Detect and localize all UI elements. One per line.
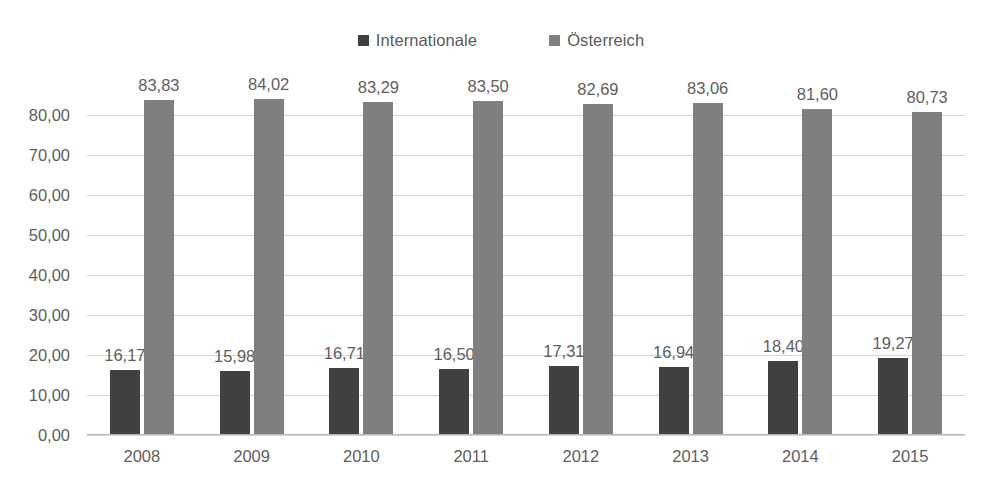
chart-legend: Internationale Österreich (0, 31, 1002, 50)
y-axis-tick-label: 20,00 (29, 346, 70, 365)
bar-slot: 16,94 (659, 75, 689, 435)
bar-group: 16,7183,29 (307, 75, 417, 435)
bar-internationale-2013[interactable]: 16,94 (659, 367, 689, 435)
y-axis-tick-label: 40,00 (29, 266, 70, 285)
gridline (87, 435, 965, 436)
x-axis-labels: 20082009201020112012201320142015 (87, 447, 965, 477)
legend-swatch-internationale (358, 35, 369, 46)
bar-group: 16,9483,06 (636, 75, 746, 435)
bar-sterreich-2013[interactable]: 83,06 (693, 103, 723, 435)
bar-sterreich-2012[interactable]: 82,69 (583, 104, 613, 435)
bar-chart: Internationale Österreich 0,0010,0020,00… (0, 0, 1002, 502)
bar-sterreich-2008[interactable]: 83,83 (144, 100, 174, 435)
legend-item-internationale: Internationale (358, 31, 477, 50)
bar-slot: 16,71 (329, 75, 359, 435)
y-axis-tick-label: 80,00 (29, 106, 70, 125)
bar-slot: 83,50 (473, 75, 503, 435)
bar-internationale-2008[interactable]: 16,17 (110, 370, 140, 435)
bar-value-label: 16,17 (104, 346, 145, 365)
x-axis-tick-label: 2009 (197, 447, 307, 477)
bar-sterreich-2015[interactable]: 80,73 (912, 112, 942, 435)
bar-value-label: 15,98 (214, 347, 255, 366)
bar-slot: 15,98 (220, 75, 250, 435)
bar-sterreich-2010[interactable]: 83,29 (363, 102, 393, 435)
bar-slot: 16,17 (110, 75, 140, 435)
bar-group: 16,5083,50 (416, 75, 526, 435)
x-axis-tick-label: 2014 (746, 447, 856, 477)
bar-value-label: 83,83 (138, 76, 179, 95)
bar-slot: 82,69 (583, 75, 613, 435)
bar-value-label: 19,27 (872, 334, 913, 353)
x-axis-tick-label: 2013 (636, 447, 746, 477)
plot-area: 16,1783,8315,9884,0216,7183,2916,5083,50… (87, 75, 965, 435)
bar-internationale-2010[interactable]: 16,71 (329, 368, 359, 435)
bar-value-label: 16,94 (653, 343, 694, 362)
legend-label-internationale: Internationale (376, 31, 477, 50)
bar-group: 17,3182,69 (526, 75, 636, 435)
bar-internationale-2014[interactable]: 18,40 (768, 361, 798, 435)
bar-slot: 84,02 (254, 75, 284, 435)
y-axis-tick-label: 50,00 (29, 226, 70, 245)
x-axis-tick-label: 2012 (526, 447, 636, 477)
x-axis-tick-label: 2008 (87, 447, 197, 477)
y-axis-tick-label: 0,00 (38, 426, 70, 445)
bar-value-label: 83,06 (687, 79, 728, 98)
y-axis-tick-label: 30,00 (29, 306, 70, 325)
bar-slot: 81,60 (802, 75, 832, 435)
bar-value-label: 82,69 (577, 80, 618, 99)
y-axis-tick-label: 10,00 (29, 386, 70, 405)
bar-value-label: 17,31 (543, 342, 584, 361)
bar-value-label: 18,40 (763, 337, 804, 356)
bar-slot: 83,06 (693, 75, 723, 435)
legend-swatch-oesterreich (549, 35, 560, 46)
bar-value-label: 83,29 (358, 78, 399, 97)
bar-value-label: 16,50 (433, 345, 474, 364)
bar-slot: 19,27 (878, 75, 908, 435)
bar-value-label: 84,02 (248, 75, 289, 94)
bar-sterreich-2014[interactable]: 81,60 (802, 109, 832, 435)
bar-groups: 16,1783,8315,9884,0216,7183,2916,5083,50… (87, 75, 965, 435)
bar-slot: 83,83 (144, 75, 174, 435)
legend-label-oesterreich: Österreich (567, 31, 644, 50)
bar-slot: 18,40 (768, 75, 798, 435)
bar-value-label: 80,73 (906, 88, 947, 107)
bar-slot: 17,31 (549, 75, 579, 435)
bar-slot: 83,29 (363, 75, 393, 435)
bar-internationale-2015[interactable]: 19,27 (878, 358, 908, 435)
y-axis-tick-label: 60,00 (29, 186, 70, 205)
bar-value-label: 16,71 (324, 344, 365, 363)
x-axis-tick-label: 2011 (416, 447, 526, 477)
y-axis-labels: 0,0010,0020,0030,0040,0050,0060,0070,008… (0, 75, 80, 435)
y-axis-tick-label: 70,00 (29, 146, 70, 165)
bar-sterreich-2009[interactable]: 84,02 (254, 99, 284, 435)
bar-internationale-2011[interactable]: 16,50 (439, 369, 469, 435)
bar-slot: 16,50 (439, 75, 469, 435)
x-axis-tick-label: 2010 (307, 447, 417, 477)
bar-internationale-2009[interactable]: 15,98 (220, 371, 250, 435)
legend-item-oesterreich: Österreich (549, 31, 644, 50)
bar-slot: 80,73 (912, 75, 942, 435)
bar-sterreich-2011[interactable]: 83,50 (473, 101, 503, 435)
bar-internationale-2012[interactable]: 17,31 (549, 366, 579, 435)
bar-group: 16,1783,83 (87, 75, 197, 435)
bar-group: 15,9884,02 (197, 75, 307, 435)
x-axis-tick-label: 2015 (855, 447, 965, 477)
bar-value-label: 81,60 (797, 85, 838, 104)
x-axis-line (87, 434, 965, 435)
bar-value-label: 83,50 (467, 77, 508, 96)
bar-group: 18,4081,60 (746, 75, 856, 435)
bar-group: 19,2780,73 (855, 75, 965, 435)
